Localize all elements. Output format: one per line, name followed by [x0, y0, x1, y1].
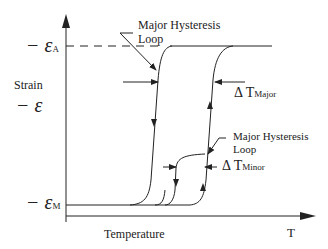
x-axis-arrow-icon: [300, 212, 316, 220]
major-loop-mid-leader: [208, 138, 226, 154]
delta-t-major-label: Δ TMajor: [234, 85, 276, 101]
y-axis-label: Strain: [14, 78, 43, 93]
epsilon-a-label: − εA: [26, 34, 59, 57]
arrow-down-icon: [173, 179, 179, 187]
arrow-up-icon: [207, 101, 213, 109]
arrow-down-icon: [151, 119, 157, 127]
y-axis-arrow-icon: [62, 14, 70, 28]
major-loop-heating-branch: [130, 46, 233, 205]
minor-loop: [165, 154, 205, 205]
delta-t-minor-label: Δ TMinor: [222, 158, 265, 174]
major-loop-mid-annotation: Major Hysteresis Loop: [233, 130, 308, 156]
minor-loop-lower: [155, 190, 165, 205]
major-loop-top-annotation: Major Hysteresis Loop: [138, 18, 220, 46]
major-loop-cooling-branch: [130, 46, 172, 205]
y-axis-symbol: − ε: [16, 94, 42, 117]
x-axis-end-label: T: [287, 225, 295, 241]
x-axis-label: Temperature: [104, 227, 164, 242]
epsilon-m-label: − εM: [26, 191, 60, 214]
